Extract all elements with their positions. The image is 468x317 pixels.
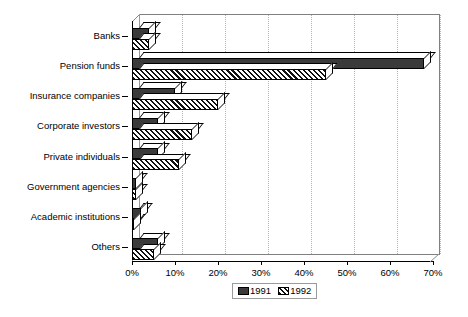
bar-top-face (132, 152, 179, 159)
legend-label: 1991 (250, 286, 271, 296)
bar-front-face (132, 189, 136, 200)
value-axis-tick-label: 60% (380, 267, 399, 278)
category-tick (122, 96, 128, 97)
value-axis-tick-label: 70% (423, 267, 442, 278)
category-label: Private individuals (0, 152, 120, 162)
value-axis-tick (347, 261, 348, 265)
category-label: Banks (0, 31, 120, 41)
bar (132, 231, 165, 242)
value-axis-tick (218, 261, 219, 265)
category-label: Insurance companies (0, 91, 120, 101)
chart-legend: 19911992 (232, 283, 317, 299)
bar (132, 152, 186, 163)
bar-top-face (132, 92, 218, 99)
category-label: Academic institutions (0, 212, 120, 222)
bar (132, 32, 156, 43)
bar (132, 212, 141, 223)
value-axis-tick-label: 50% (337, 267, 356, 278)
category-tick (122, 66, 128, 67)
bar-top-face (132, 141, 158, 148)
value-axis-tick (261, 261, 262, 265)
category-tick (122, 247, 128, 248)
bar (132, 81, 182, 92)
value-axis-tick-label: 30% (251, 267, 270, 278)
bar-top-face (132, 242, 154, 249)
bar (132, 62, 333, 73)
bar-front-face (132, 39, 149, 50)
category-tick (122, 157, 128, 158)
legend-entry: 1991 (238, 286, 271, 296)
value-axis-tick-label: 20% (208, 267, 227, 278)
bar-chart: BanksPension fundsInsurance companiesCor… (0, 0, 468, 317)
bar (132, 141, 165, 152)
floor-front-edge (132, 261, 433, 262)
legend-swatch (278, 287, 289, 295)
category-axis: BanksPension fundsInsurance companiesCor… (0, 18, 128, 260)
legend-label: 1992 (290, 286, 311, 296)
bar-front-face (132, 159, 179, 170)
category-tick (122, 217, 128, 218)
bar-front-face (132, 219, 134, 230)
category-label: Corporate investors (0, 121, 120, 131)
value-axis-tick-label: 10% (165, 267, 184, 278)
value-axis-tick (390, 261, 391, 265)
bar-top-face (132, 32, 149, 39)
bar (132, 182, 143, 193)
value-axis-tick-label: 0% (125, 267, 139, 278)
value-axis-tick (132, 261, 133, 265)
plot-area: 0%10%20%30%40%50%60%70% (132, 14, 440, 262)
gridline (440, 15, 441, 254)
floor-corner-connector (430, 254, 440, 263)
category-label: Government agencies (0, 182, 120, 192)
value-axis-tick (304, 261, 305, 265)
category-tick (122, 36, 128, 37)
bar (132, 111, 165, 122)
bar-front-face (132, 129, 192, 140)
legend-entry: 1992 (278, 286, 311, 296)
value-axis-tick (433, 261, 434, 265)
category-tick (122, 126, 128, 127)
legend-swatch (238, 287, 249, 295)
bar-front-face (132, 69, 326, 80)
bar (132, 21, 156, 32)
value-axis-tick (175, 261, 176, 265)
bar-top-face (132, 201, 141, 208)
category-label: Others (0, 242, 120, 252)
bar-top-face (132, 122, 192, 129)
bar (132, 242, 161, 253)
bar-top-face (132, 51, 424, 58)
bar (132, 92, 225, 103)
bar-front-face (132, 99, 218, 110)
bar-top-face (132, 111, 158, 118)
bar (132, 51, 431, 62)
bar-top-face (132, 81, 175, 88)
bar (132, 122, 199, 133)
category-label: Pension funds (0, 61, 120, 71)
bar-top-face (132, 21, 149, 28)
bar-top-face (132, 62, 326, 69)
category-tick (122, 187, 128, 188)
bar-front-face (132, 249, 154, 260)
value-axis-tick-label: 40% (294, 267, 313, 278)
bar (132, 171, 143, 182)
bar-top-face (132, 231, 158, 238)
bar (132, 201, 148, 212)
